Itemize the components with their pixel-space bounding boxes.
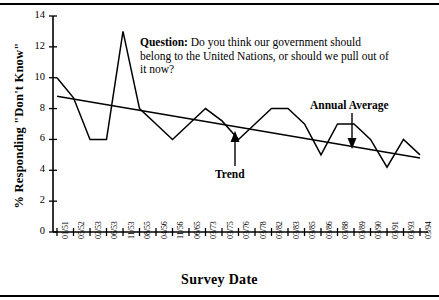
x-tick-label: 03/78 — [259, 221, 268, 239]
x-tick-label: 06/65 — [193, 221, 202, 239]
x-tick-label: 03/90 — [374, 221, 383, 239]
y-tick-label: 0 — [23, 225, 45, 236]
x-tick-label: 03/88 — [341, 221, 350, 239]
y-tick-label: 6 — [23, 132, 45, 143]
x-tick-label: 03/94 — [424, 221, 433, 239]
y-tick-label: 10 — [23, 71, 45, 82]
x-tick-label: 06/53 — [110, 221, 119, 239]
y-tick-label: 4 — [23, 163, 45, 174]
x-tick-label: 03/85 — [308, 221, 317, 239]
x-tick-label: 11/56 — [176, 222, 185, 239]
x-tick-label: 03/73 — [209, 221, 218, 239]
question-lead: Question: — [140, 36, 188, 48]
annual-average-callout-label: Annual Average — [310, 99, 389, 111]
y-tick-label: 8 — [23, 102, 45, 113]
y-tick-label: 2 — [23, 194, 45, 205]
x-tick-label: 03/76 — [242, 221, 251, 239]
chart-figure: % Responding "Don't Know" Survey Date Qu… — [0, 0, 439, 300]
x-tick-label: 03/75 — [226, 221, 235, 239]
x-tick-label: 03/91 — [391, 221, 400, 239]
trend-callout-label: Trend — [215, 168, 245, 180]
y-tick-label: 12 — [23, 40, 45, 51]
y-tick-label: 14 — [23, 9, 45, 20]
x-tick-label: 08/55 — [143, 221, 152, 239]
x-tick-label: 11/53 — [127, 222, 136, 239]
x-tick-label: 03/82 — [275, 221, 284, 239]
x-tick-label: 05/52 — [77, 221, 86, 239]
callout-arrows — [231, 113, 357, 166]
x-axis-label: Survey Date — [0, 272, 439, 288]
x-tick-label: 03/86 — [325, 221, 334, 239]
question-annotation: Question: Do you think our government sh… — [140, 36, 390, 77]
x-tick-label: 03/83 — [292, 221, 301, 239]
x-tick-label: 04/56 — [160, 221, 169, 239]
x-tick-label: 01/51 — [61, 221, 70, 239]
x-tick-label: 03/89 — [358, 221, 367, 239]
x-tick-label: 03/93 — [407, 221, 416, 239]
x-tick-label: 02/53 — [94, 221, 103, 239]
